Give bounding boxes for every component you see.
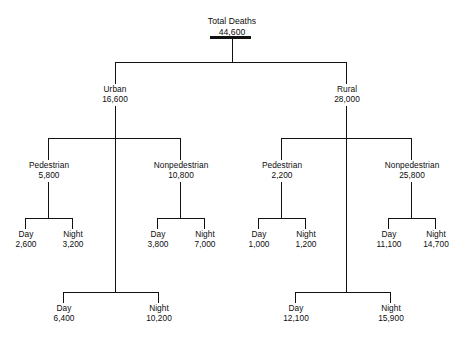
node-label: Total Deaths [208, 16, 256, 27]
node-urban-total-night: Night 10,200 [146, 303, 172, 323]
node-value: 7,000 [194, 239, 215, 249]
node-label: Night [146, 303, 172, 313]
node-label: Day [248, 229, 269, 239]
node-value: 11,100 [376, 239, 401, 249]
node-label: Day [147, 229, 168, 239]
node-label: Day [376, 229, 401, 239]
node-value: 10,200 [146, 313, 172, 323]
node-label: Day [283, 303, 309, 313]
node-urban-total-day: Day 6,400 [53, 303, 74, 323]
node-urban-nonpedestrian-night: Night 7,000 [194, 229, 215, 249]
node-label: Night [423, 229, 449, 239]
node-urban: Urban 16,600 [102, 84, 128, 104]
node-value: 3,200 [62, 239, 83, 249]
node-label: Rural [334, 84, 360, 94]
node-value: 6,400 [53, 313, 74, 323]
node-urban-nonpedestrian-day: Day 3,800 [147, 229, 168, 249]
node-urban-pedestrian: Pedestrian 5,800 [29, 160, 69, 180]
node-label: Nonpedestrian [385, 160, 440, 170]
node-value: 44,600 [208, 27, 256, 38]
node-rural-pedestrian-night: Night 1,200 [295, 229, 316, 249]
node-rural-nonpedestrian-night: Night 14,700 [423, 229, 449, 249]
node-value: 1,000 [248, 239, 269, 249]
node-value: 1,200 [295, 239, 316, 249]
node-label: Night [295, 229, 316, 239]
node-label: Night [194, 229, 215, 239]
node-value: 2,200 [262, 170, 302, 180]
node-value: 12,100 [283, 313, 309, 323]
node-value: 14,700 [423, 239, 449, 249]
node-label: Urban [102, 84, 128, 94]
node-value: 15,900 [378, 313, 404, 323]
node-rural: Rural 28,000 [334, 84, 360, 104]
node-label: Nonpedestrian [154, 160, 209, 170]
node-rural-pedestrian-day: Day 1,000 [248, 229, 269, 249]
node-urban-pedestrian-day: Day 2,600 [15, 229, 36, 249]
node-rural-nonpedestrian: Nonpedestrian 25,800 [385, 160, 440, 180]
node-label: Day [15, 229, 36, 239]
node-rural-total-night: Night 15,900 [378, 303, 404, 323]
node-label: Night [378, 303, 404, 313]
node-rural-pedestrian: Pedestrian 2,200 [262, 160, 302, 180]
node-label: Day [53, 303, 74, 313]
node-urban-pedestrian-night: Night 3,200 [62, 229, 83, 249]
deaths-hierarchy-diagram: Total Deaths 44,600 Urban 16,600 Rural 2… [0, 0, 463, 340]
node-value: 10,800 [154, 170, 209, 180]
node-value: 3,800 [147, 239, 168, 249]
node-total-deaths: Total Deaths 44,600 [208, 16, 256, 37]
node-value: 2,600 [15, 239, 36, 249]
node-urban-nonpedestrian: Nonpedestrian 10,800 [154, 160, 209, 180]
node-value: 25,800 [385, 170, 440, 180]
node-label: Pedestrian [29, 160, 69, 170]
node-label: Night [62, 229, 83, 239]
node-value: 28,000 [334, 94, 360, 104]
node-label: Pedestrian [262, 160, 302, 170]
node-rural-nonpedestrian-day: Day 11,100 [376, 229, 401, 249]
node-value: 5,800 [29, 170, 69, 180]
node-rural-total-day: Day 12,100 [283, 303, 309, 323]
node-value: 16,600 [102, 94, 128, 104]
